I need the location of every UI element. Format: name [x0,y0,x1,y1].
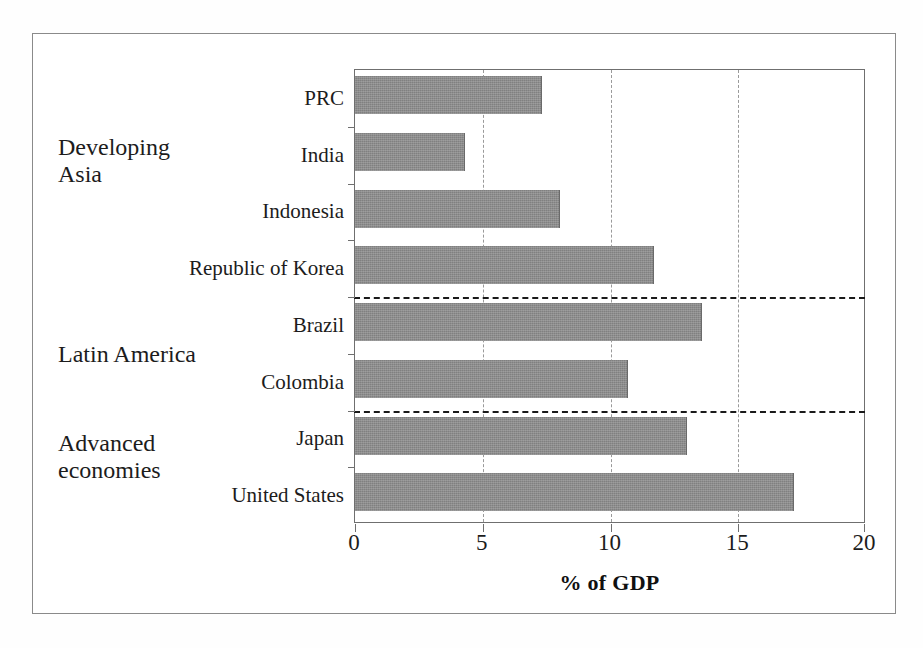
bar-japan[interactable] [355,417,687,455]
group-separator-developing-asia [354,297,865,299]
category-label-brazil: Brazil [44,315,344,336]
x-axis-tick-label-0: 0 [348,531,360,554]
y-axis-tick [348,184,355,185]
y-axis-tick [348,240,355,241]
category-label-indonesia: Indonesia [44,201,344,222]
x-axis-title: % of GDP [354,570,865,596]
figure-canvas: Developing Asia Latin America Advanced e… [0,0,923,648]
category-axis-labels: PRC India Indonesia Republic of Korea Br… [44,69,344,523]
bar-row [355,127,864,184]
bar-row [355,184,864,241]
x-axis-tick-label-15: 15 [726,531,749,554]
x-axis-tick-label-10: 10 [598,531,621,554]
category-label-japan: Japan [44,428,344,449]
category-label-colombia: Colombia [44,372,344,393]
bar-colombia[interactable] [355,360,628,398]
category-label-republic-of-korea: Republic of Korea [44,258,344,279]
bar-indonesia[interactable] [355,190,560,228]
y-axis-tick [348,297,355,298]
y-axis-tick [348,467,355,468]
bar-republic-of-korea[interactable] [355,246,654,284]
x-axis-tick-label-20: 20 [853,531,876,554]
bar-india[interactable] [355,133,465,171]
bar-prc[interactable] [355,76,542,114]
x-axis-tick-label-5: 5 [476,531,488,554]
bar-united-states[interactable] [355,473,794,511]
y-axis-tick [348,127,355,128]
category-label-india: India [44,145,344,166]
group-separator-latin-america [354,411,865,413]
bar-row [355,240,864,297]
bar-row [355,297,864,354]
y-axis-tick [348,411,355,412]
bar-row [355,70,864,127]
category-label-united-states: United States [44,485,344,506]
bar-brazil[interactable] [355,303,702,341]
plot-area [354,69,865,523]
category-label-prc: PRC [44,88,344,109]
bars-layer [355,70,864,522]
bar-row [355,411,864,468]
y-axis-tick [348,354,355,355]
bar-row [355,354,864,411]
bar-row [355,467,864,524]
